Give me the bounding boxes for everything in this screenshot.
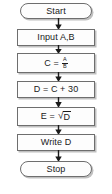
flowchart-node-start-label: Start	[46, 7, 66, 16]
flowchart-node-stop: Stop	[20, 161, 92, 177]
fraction-denominator: B	[62, 63, 68, 70]
flowchart-node-divide-lhs: C =	[44, 59, 59, 68]
flowchart-node-write-label: Write D	[41, 138, 72, 147]
flowchart-node-sqrt-label: E =√D	[41, 111, 71, 122]
flowchart-diagram: Start Input A,B C =AB D = C + 30	[0, 0, 112, 194]
flowchart-node-stop-label: Stop	[47, 165, 66, 174]
flowchart-node-divide: C =AB	[17, 53, 95, 73]
flowchart-node-write: Write D	[17, 134, 95, 151]
flowchart-node-input: Input A,B	[17, 29, 95, 46]
radicand: D	[63, 111, 72, 122]
flowchart-node-sqrt: E =√D	[17, 107, 95, 126]
flowchart-node-add: D = C + 30	[17, 81, 95, 98]
fraction-a-over-b: AB	[62, 57, 68, 70]
flowchart-node-sqrt-lhs: E =	[41, 112, 55, 121]
square-root-icon: √D	[58, 111, 71, 122]
flowchart-node-divide-label: C =AB	[44, 57, 67, 70]
flowchart-node-add-label: D = C + 30	[34, 85, 79, 94]
flowchart-node-input-label: Input A,B	[37, 33, 74, 42]
flowchart-node-start: Start	[20, 3, 92, 19]
